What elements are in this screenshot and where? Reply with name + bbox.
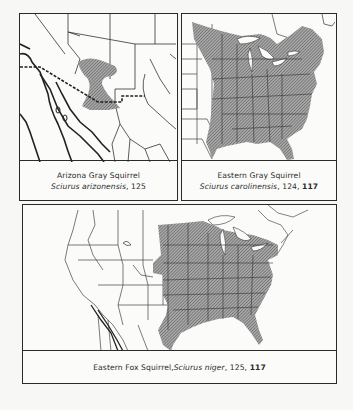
- scientific-name: Sciurus carolinensis: [200, 182, 277, 191]
- scientific-line: Sciurus arizonensis, 125: [51, 181, 146, 192]
- page-refs: , 125,: [225, 362, 250, 373]
- map-panel-arizona-gray-squirrel: Arizona Gray Squirrel Sciurus arizonensi…: [19, 13, 178, 201]
- illustration-page: 117: [302, 182, 318, 191]
- scientific-name: Sciurus niger: [174, 362, 225, 373]
- scientific-line: Sciurus carolinensis, 124, 117: [200, 181, 318, 192]
- caption-eastern-gray: Eastern Gray Squirrel Sciurus carolinens…: [182, 160, 336, 200]
- map-panel-eastern-fox-squirrel: Eastern Fox Squirrel, Sciurus niger, 125…: [22, 204, 337, 384]
- page-refs: , 125: [126, 182, 146, 191]
- illustration-page: 117: [250, 362, 266, 373]
- range-map-eastern-fox: [23, 205, 336, 351]
- caption-arizona: Arizona Gray Squirrel Sciurus arizonensi…: [20, 160, 177, 200]
- map-panel-eastern-gray-squirrel: Eastern Gray Squirrel Sciurus carolinens…: [181, 13, 337, 201]
- range-map-eastern-gray: [182, 14, 336, 162]
- common-name: Arizona Gray Squirrel: [57, 170, 140, 181]
- scientific-name: Sciurus arizonensis: [51, 182, 126, 191]
- common-name: Eastern Gray Squirrel: [217, 170, 300, 181]
- caption-eastern-fox: Eastern Fox Squirrel, Sciurus niger, 125…: [23, 350, 336, 383]
- page-refs: , 124,: [277, 182, 302, 191]
- common-name: Eastern Fox Squirrel,: [93, 362, 174, 373]
- range-map-arizona: [20, 14, 177, 162]
